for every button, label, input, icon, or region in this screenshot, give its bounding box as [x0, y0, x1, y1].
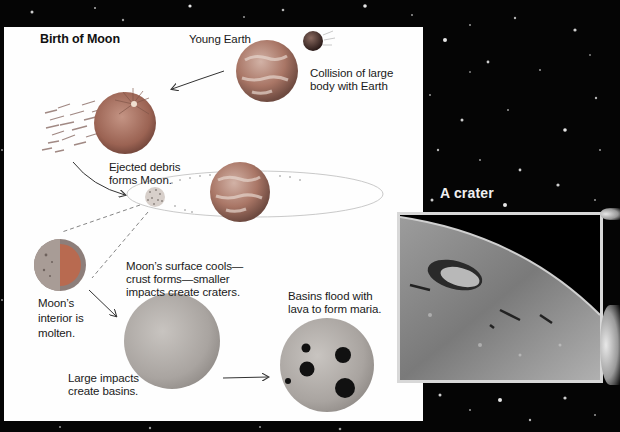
label-maria-line1: Basins flood with — [288, 290, 381, 303]
diagram-title: Birth of Moon — [40, 33, 120, 46]
label-large-impacts: Large impacts create basins. — [68, 372, 139, 398]
label-molten-line1: Moon’s — [38, 296, 84, 311]
label-cools-line1: Moon’s surface cools— — [126, 260, 243, 273]
label-collision-line1: Collision of large — [310, 67, 393, 80]
crater-photo-image — [400, 215, 600, 380]
label-collision: Collision of large body with Earth — [310, 67, 393, 93]
label-cools-line2: crust forms—smaller — [126, 273, 243, 286]
photo-edge-tab-top — [600, 208, 620, 220]
label-basins-line2: create basins. — [68, 385, 139, 398]
label-ejected-line1: Ejected debris — [109, 161, 180, 174]
label-cools-line3: impacts create craters. — [126, 286, 243, 299]
crater-heading: A crater — [440, 185, 494, 201]
label-maria-line2: lava to form maria. — [288, 303, 381, 316]
label-molten-interior: Moon’s interior is molten. — [38, 296, 84, 341]
label-ejected-debris: Ejected debris forms Moon. — [109, 161, 180, 187]
label-basins-line1: Large impacts — [68, 372, 139, 385]
label-surface-cools: Moon’s surface cools— crust forms—smalle… — [126, 260, 243, 299]
label-collision-line2: body with Earth — [310, 80, 393, 93]
label-molten-line3: molten. — [38, 326, 84, 341]
label-molten-line2: interior is — [38, 311, 84, 326]
label-young-earth: Young Earth — [189, 33, 251, 46]
label-ejected-line2: forms Moon. — [109, 174, 180, 187]
label-basins-flood: Basins flood with lava to form maria. — [288, 290, 381, 316]
photo-edge-tab-bottom — [600, 305, 620, 385]
crater-photo — [400, 215, 600, 380]
